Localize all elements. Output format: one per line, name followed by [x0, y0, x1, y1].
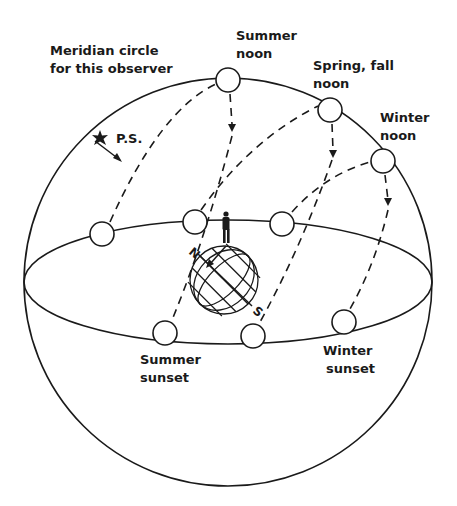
spring-fall-noon-label-line1: Spring, fall: [313, 58, 394, 73]
equinox-path-arrow: [329, 150, 337, 158]
sun-spring-fall-sunset: [241, 324, 265, 348]
meridian-pointer-arrowhead: [113, 153, 122, 162]
summer-noon-label-line2: noon: [236, 46, 272, 61]
summer-path-arrow: [228, 124, 236, 132]
winter-noon-label-line1: Winter: [380, 110, 430, 125]
equinox-path-noon-drop: [332, 124, 333, 150]
sun-spring-fall-noon: [318, 98, 342, 122]
summer-noon-label-line1: Summer: [236, 28, 298, 43]
winter-path-set: [350, 210, 388, 309]
sun-spring-fall-sunrise: [183, 210, 207, 234]
meridian-label-line1: Meridian circle: [50, 43, 159, 58]
sun-winter-sunset: [332, 310, 356, 334]
equinox-path-rise: [201, 106, 318, 210]
summer-sunset-label-line2: sunset: [140, 370, 189, 385]
winter-sunset-label-line2: sunset: [326, 361, 375, 376]
summer-path-noon-drop: [230, 94, 232, 124]
winter-path-rise: [292, 162, 370, 212]
meridian-label-line2: for this observer: [50, 61, 173, 76]
winter-path-noon-drop: [385, 175, 388, 200]
polaris-label: P.S.: [116, 131, 142, 146]
summer-sunset-label-line1: Summer: [140, 352, 202, 367]
winter-noon-label-line2: noon: [380, 128, 416, 143]
winter-sunset-label-line1: Winter: [323, 343, 373, 358]
sun-winter-sunrise: [270, 212, 294, 236]
sun-winter-noon: [371, 149, 395, 173]
sun-summer-noon: [216, 68, 240, 92]
sun-summer-sunset: [153, 321, 177, 345]
winter-path-arrow: [384, 198, 392, 206]
observer-figure-icon: [223, 211, 230, 243]
equinox-path-set: [260, 160, 332, 322]
celestial-sphere-diagram: Meridian circle for this observer P.S. S…: [0, 0, 457, 506]
polaris-star-icon: [92, 130, 108, 145]
north-label: N: [186, 245, 203, 262]
sun-summer-sunrise: [90, 222, 114, 246]
spring-fall-noon-label-line2: noon: [313, 76, 349, 91]
